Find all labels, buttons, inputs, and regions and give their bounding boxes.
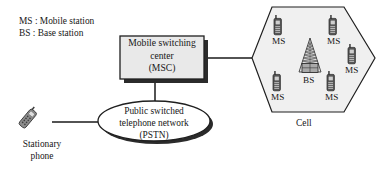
legend-line-ms: MS : Mobile station: [19, 15, 94, 27]
msc-label-line-1: Mobile switching: [120, 37, 204, 50]
ms-label-top-right: MS: [327, 37, 340, 47]
pstn-label: Public switched telephone network (PSTN): [99, 105, 209, 142]
stationary-phone-label: Stationary phone: [8, 138, 76, 162]
ms-label-top-left: MS: [272, 37, 285, 47]
pstn-label-line-1: Public switched: [99, 105, 209, 117]
ms-label-bottom-left: MS: [271, 93, 284, 103]
legend-line-bs: BS : Base station: [19, 27, 94, 39]
bs-label: BS: [303, 76, 314, 86]
pstn-label-line-3: (PSTN): [99, 129, 209, 141]
msc-label: Mobile switching center (MSC): [120, 37, 204, 75]
abbreviation-legend: MS : Mobile station BS : Base station: [19, 15, 94, 39]
msc-label-line-2: center: [120, 50, 204, 63]
msc-label-line-3: (MSC): [120, 62, 204, 75]
stationary-phone-icon: [18, 106, 39, 129]
stationary-phone-label-line-1: Stationary: [8, 138, 76, 150]
pstn-label-line-2: telephone network: [99, 117, 209, 129]
ms-label-bottom-right: MS: [325, 93, 338, 103]
stationary-phone-label-line-2: phone: [8, 150, 76, 162]
ms-label-right: MS: [345, 66, 358, 76]
cell-label: Cell: [296, 118, 312, 128]
cellular-network-diagram: MS : Mobile station BS : Base station Mo…: [0, 0, 383, 172]
